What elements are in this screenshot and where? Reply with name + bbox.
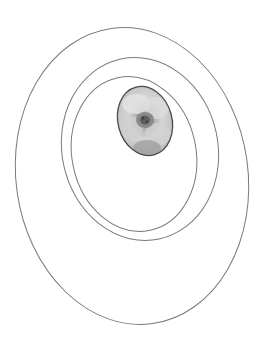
- outer-ring: [0, 12, 264, 339]
- nested-ellipses-diagram: [0, 0, 264, 350]
- flower-image: [110, 80, 180, 165]
